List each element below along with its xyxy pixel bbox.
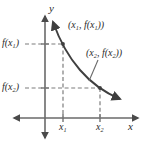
- curve-point-x1: [61, 42, 65, 46]
- x-tick-label-x2: x2: [96, 122, 104, 132]
- x-axis-label: x: [128, 121, 133, 132]
- y-value-label-fx1: f(x1): [2, 38, 19, 48]
- function-graph-figure: f(x1) f(x2) x1 x2 x y (x1, f(x1)) (x2, f…: [0, 0, 145, 146]
- x-tick-label-x1: x1: [59, 122, 67, 132]
- leader-line-point2: [89, 60, 98, 81]
- y-axis-label: y: [49, 3, 54, 14]
- point-label-2: (x2, f(x2)): [86, 48, 122, 58]
- curve-point-x2: [98, 86, 102, 90]
- point-label-1: (x1, f(x1)): [68, 20, 104, 30]
- y-value-label-fx2: f(x2): [2, 82, 19, 92]
